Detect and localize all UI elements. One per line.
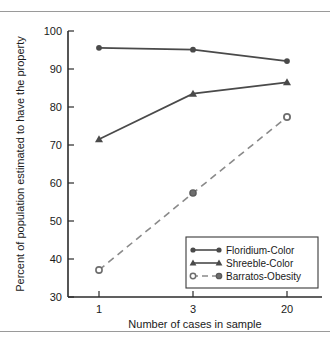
figure-container: 30 40 50 60 70 80 90 100 1 3 20 Number o… [0,0,330,343]
data-point-floridium-1 [96,45,102,51]
y-axis-title: Percent of population estimated to have … [14,36,26,292]
series-shreeble-color [95,78,291,142]
legend-marker-floridium-start [190,247,195,252]
legend-label-shreeble-color: Shreeble-Color [226,258,294,269]
x-tick-label-3: 3 [190,303,196,315]
legend-marker-barratos-end [216,273,221,278]
legend-marker-barratos-start [190,273,195,278]
y-tick-marks [68,31,74,297]
x-axis-title: Number of cases in sample [128,318,261,330]
y-tick-label-90: 90 [50,63,62,75]
data-point-barratos-1 [96,267,102,273]
x-tick-label-1: 1 [96,303,102,315]
chart-plot-area: 30 40 50 60 70 80 90 100 1 3 20 Number o… [0,12,330,330]
data-point-floridium-20 [284,58,290,64]
y-tick-label-30: 30 [50,291,62,303]
y-tick-label-80: 80 [50,101,62,113]
y-tick-label-100: 100 [44,25,62,37]
x-tick-marks [99,291,287,297]
data-point-barratos-20 [284,114,290,120]
data-point-barratos-3 [190,190,196,196]
legend-label-barratos-obesity: Barratos-Obesity [226,271,301,282]
y-tick-label-70: 70 [50,139,62,151]
y-tick-label-40: 40 [50,253,62,265]
data-point-floridium-3 [190,47,196,53]
legend-label-floridium-color: Floridium-Color [226,245,295,256]
legend-marker-floridium-end [216,247,221,252]
series-floridium-color [96,45,290,64]
bottom-divider-rule [0,331,330,332]
line-chart-svg: 30 40 50 60 70 80 90 100 1 3 20 Number o… [0,12,330,330]
y-tick-label-50: 50 [50,215,62,227]
x-tick-label-20: 20 [281,303,293,315]
y-tick-label-60: 60 [50,177,62,189]
chart-legend: Floridium-Color Shreeble-Color Barratos-… [186,237,318,288]
